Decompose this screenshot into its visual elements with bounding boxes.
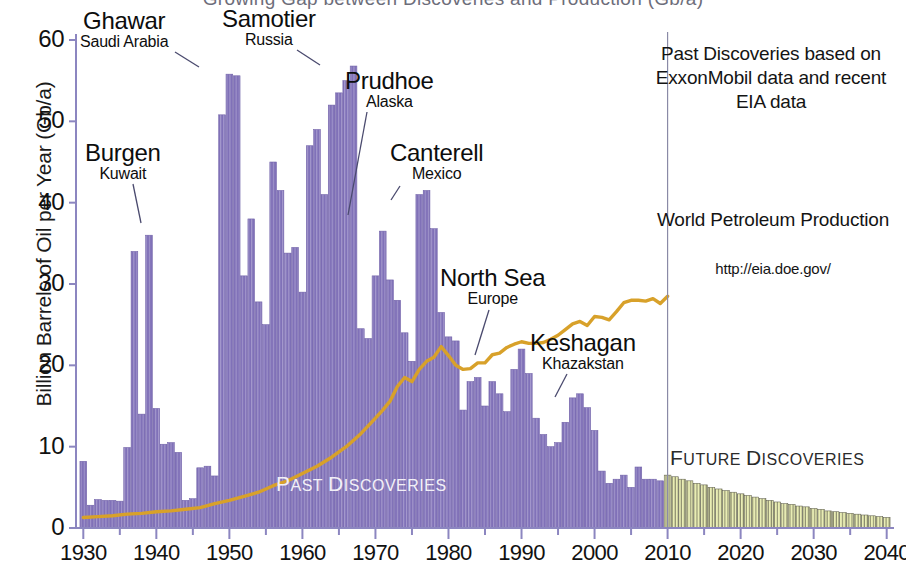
bar	[737, 494, 744, 528]
bar	[723, 491, 730, 528]
bar	[774, 502, 781, 528]
bar	[401, 333, 408, 528]
bar	[788, 504, 795, 528]
bar	[569, 398, 576, 528]
bar	[328, 105, 335, 528]
bar	[226, 74, 233, 528]
leader-line-keshagan	[555, 374, 567, 397]
bar	[613, 479, 620, 528]
x-tick-label: 1930	[51, 540, 115, 566]
annotation-country: Alaska	[345, 93, 434, 110]
annotation-north-sea: North SeaEurope	[440, 265, 545, 307]
bar	[832, 512, 839, 528]
bar	[175, 452, 182, 528]
bar	[745, 495, 752, 528]
bar	[445, 337, 452, 528]
y-tick-label: 40	[6, 188, 64, 216]
annotation-prudhoe: PrudhoeAlaska	[345, 68, 434, 110]
bar	[219, 115, 226, 528]
bar	[876, 517, 883, 528]
bar	[577, 394, 584, 528]
bar	[182, 500, 189, 528]
annotation-field-name: Prudhoe	[345, 68, 434, 93]
annotation-country: Mexico	[390, 165, 483, 182]
bar	[657, 481, 664, 528]
bar	[460, 410, 467, 528]
bar	[365, 338, 372, 528]
bar	[233, 76, 240, 528]
past-discoveries-label: PAST DISCOVERIES	[276, 472, 447, 496]
bar	[489, 382, 496, 528]
bar	[168, 443, 175, 528]
production-title: World Petroleum Production	[648, 208, 898, 232]
bar	[803, 507, 810, 528]
bar	[160, 444, 167, 528]
x-tick-label: 2040	[855, 540, 906, 566]
leader-line-samotier	[297, 50, 320, 65]
annotation-burgen: BurgenKuwait	[85, 140, 161, 182]
future-discoveries-bars	[664, 475, 890, 528]
bar	[715, 489, 722, 528]
bar	[467, 382, 474, 528]
annotation-canterell: CanterellMexico	[390, 140, 483, 182]
leader-line-ghawar	[175, 52, 199, 67]
x-tick-label: 1970	[343, 540, 407, 566]
bar	[511, 369, 518, 528]
bar	[197, 468, 204, 528]
bar	[840, 513, 847, 528]
bar	[504, 412, 511, 528]
bar	[591, 430, 598, 528]
bar	[708, 487, 715, 528]
bar	[547, 447, 554, 528]
bar	[679, 479, 686, 528]
x-tick-label: 2030	[782, 540, 846, 566]
x-tick-label: 1950	[197, 540, 261, 566]
bar	[628, 487, 635, 528]
y-tick-label: 30	[6, 269, 64, 297]
annotation-country: Kuwait	[85, 165, 161, 182]
bar	[138, 414, 145, 528]
bar	[752, 497, 759, 528]
bar	[584, 408, 591, 528]
bar	[869, 516, 876, 528]
bar	[861, 515, 868, 528]
annotation-country: Saudi Arabia	[80, 33, 168, 50]
leader-line-canterell	[391, 186, 400, 200]
x-tick-label: 1940	[124, 540, 188, 566]
annotation-country: Europe	[440, 290, 545, 307]
x-tick-label: 2000	[563, 540, 627, 566]
bar	[701, 485, 708, 528]
bar	[533, 418, 540, 528]
annotation-field-name: Burgen	[85, 140, 161, 165]
bar	[95, 500, 102, 528]
bar	[525, 373, 532, 528]
y-tick-label: 60	[6, 25, 64, 53]
annotation-field-name: North Sea	[440, 265, 545, 290]
bar	[409, 361, 416, 528]
x-tick-label: 2010	[636, 540, 700, 566]
bar	[482, 406, 489, 528]
bar	[730, 492, 737, 528]
past-discoveries-bars	[80, 66, 664, 528]
leader-line-burgen	[133, 184, 141, 223]
bar	[241, 276, 248, 528]
bar	[350, 66, 357, 528]
production-url: http://eia.doe.gov/	[648, 260, 898, 278]
x-tick-label: 1980	[416, 540, 480, 566]
bar	[766, 500, 773, 528]
bar	[336, 93, 343, 528]
y-tick-label: 0	[6, 513, 64, 541]
bar	[452, 341, 459, 528]
chart-figure: Growing Gap between Discoveries and Prod…	[0, 0, 906, 566]
x-tick-label: 1960	[270, 540, 334, 566]
y-tick-label: 50	[6, 106, 64, 134]
annotation-keshagan: KeshaganKhazakstan	[530, 330, 636, 372]
x-tick-label: 2020	[709, 540, 773, 566]
bar	[555, 443, 562, 528]
bar	[854, 514, 861, 528]
annotation-field-name: Samotier	[222, 6, 316, 31]
annotation-ghawar: GhawarSaudi Arabia	[80, 8, 168, 50]
bar	[357, 329, 364, 528]
bar	[810, 508, 817, 528]
annotation-country: Russia	[222, 31, 316, 48]
